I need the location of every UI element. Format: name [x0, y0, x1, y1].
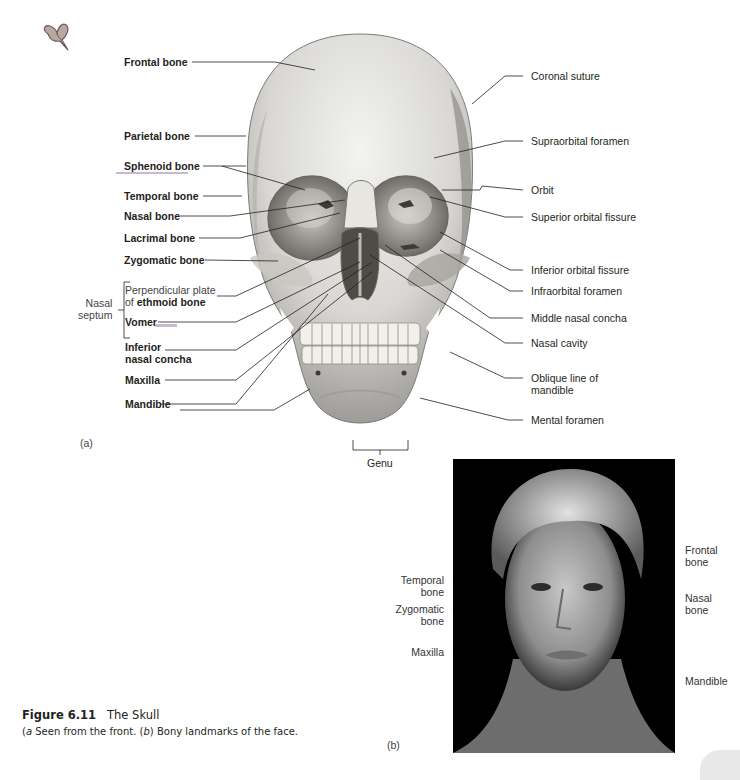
label-nasal-bone: Nasal bone [124, 210, 180, 223]
label-b-nasal-line1: Nasal [685, 592, 712, 604]
caption-title-line: Figure 6.11 The Skull [22, 708, 298, 722]
label-b-nasal-line2: bone [685, 604, 712, 616]
label-b-nasal-bone: Nasal bone [685, 592, 712, 616]
label-nasal-concha: nasal concha [125, 353, 192, 366]
label-of: of [125, 296, 137, 308]
label-supraorbital-foramen: Supraorbital foramen [531, 135, 629, 148]
label-ethmoid-line: of ethmoid bone [125, 296, 206, 309]
label-b-zygomatic-bone: Zygomatic bone [380, 603, 444, 627]
label-b-frontal-bone: Frontal bone [685, 544, 718, 568]
caption-description: (a Seen from the front. (b) Bony landmar… [22, 726, 298, 737]
label-b-frontal-line1: Frontal [685, 544, 718, 556]
heart-doodle-icon [40, 20, 74, 54]
label-frontal-bone: Frontal bone [124, 56, 188, 69]
skull-illustration [230, 28, 490, 438]
label-temporal-bone: Temporal bone [124, 190, 198, 203]
label-infraorbital-foramen: Infraorbital foramen [531, 285, 622, 298]
label-maxilla: Maxilla [125, 374, 160, 387]
label-mental-foramen: Mental foramen [531, 414, 604, 427]
caption-b-text: ) Bony landmarks of the face. [150, 726, 298, 737]
label-superior-orbital-fissure: Superior orbital fissure [531, 211, 636, 224]
face-photo [453, 459, 675, 753]
highlighter-mark [155, 324, 177, 327]
panel-b-tag: (b) [387, 739, 400, 752]
label-vomer: Vomer [125, 316, 157, 329]
caption-a-text: Seen from the front. ( [32, 726, 143, 737]
label-orbit: Orbit [531, 184, 554, 197]
caption-title: The Skull [107, 708, 159, 722]
page-corner-tab [700, 750, 740, 780]
caption-figure-number: Figure 6.11 [22, 708, 96, 722]
label-nasal-septum: Nasal septum [78, 297, 112, 321]
label-lacrimal-bone: Lacrimal bone [124, 232, 195, 245]
label-b-temporal-line2: bone [380, 586, 444, 598]
label-b-frontal-line2: bone [685, 556, 718, 568]
label-coronal-suture: Coronal suture [531, 70, 600, 83]
label-zygomatic-bone: Zygomatic bone [124, 254, 205, 267]
label-b-zygomatic-line1: Zygomatic [380, 603, 444, 615]
figure-caption: Figure 6.11 The Skull (a Seen from the f… [22, 708, 298, 737]
label-mandible: Mandible [125, 398, 171, 411]
panel-a-tag: (a) [80, 437, 93, 450]
label-oblique-line-2: mandible [531, 384, 574, 397]
label-nasal-cavity: Nasal cavity [531, 337, 588, 350]
label-b-temporal-bone: Temporal bone [380, 574, 444, 598]
label-nasal-septum-line2: septum [78, 309, 112, 321]
label-ethmoid-bone: ethmoid bone [137, 296, 206, 308]
label-b-temporal-line1: Temporal [380, 574, 444, 586]
face-silhouette [453, 459, 675, 753]
label-parietal-bone: Parietal bone [124, 130, 190, 143]
label-b-maxilla: Maxilla [380, 646, 444, 659]
label-b-mandible: Mandible [685, 675, 728, 688]
label-middle-nasal-concha: Middle nasal concha [531, 312, 627, 325]
label-nasal-septum-line1: Nasal [78, 297, 112, 309]
label-b-zygomatic-line2: bone [380, 615, 444, 627]
label-inferior-orbital-fissure: Inferior orbital fissure [531, 264, 629, 277]
label-genu: Genu [367, 457, 393, 470]
highlighter-mark [116, 172, 188, 174]
